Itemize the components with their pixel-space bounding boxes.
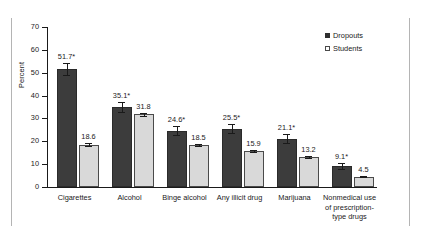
bar-students[interactable] (134, 114, 154, 187)
bar-value-label: 9.1* (326, 152, 358, 161)
bar-group: 21.1*13.2 (277, 27, 319, 187)
frame-rule-left (11, 18, 12, 226)
bar-value-label: 13.2 (293, 145, 325, 154)
y-axis-tick-label: 20 (31, 135, 39, 146)
bar-students[interactable] (79, 145, 99, 188)
chart-page: Percent 706050403020100 51.7*18.635.1*31… (0, 0, 429, 238)
error-cap-lower (118, 112, 125, 113)
frame-rule-right (409, 18, 410, 226)
bar-group: 24.6*18.5 (167, 27, 209, 187)
error-cap-upper (338, 163, 345, 164)
y-axis-tick-label: 40 (31, 90, 39, 101)
error-cap-upper (283, 134, 290, 135)
error-cap-lower (250, 152, 257, 153)
bar-value-label: 35.1* (106, 91, 138, 100)
y-axis-tick: 10 (42, 164, 47, 165)
y-axis-tick-label: 0 (35, 181, 39, 192)
error-cap-lower (360, 177, 367, 178)
error-bar (67, 63, 68, 75)
y-axis-tick: 60 (42, 50, 47, 51)
error-bar (232, 124, 233, 133)
bar-students[interactable] (299, 157, 319, 187)
bar-value-label: 51.7* (51, 52, 83, 61)
bar-dropouts[interactable] (57, 69, 77, 187)
error-cap-lower (305, 158, 312, 159)
y-axis-tick-label: 50 (31, 67, 39, 78)
y-axis-tick-label: 70 (31, 21, 39, 32)
bar-value-label: 15.9 (238, 139, 270, 148)
chart-legend: Dropouts Students (325, 30, 363, 56)
bar-group: 35.1*31.8 (112, 27, 154, 187)
bar-group: 25.5*15.9 (222, 27, 264, 187)
error-cap-lower (228, 133, 235, 134)
legend-swatch-dropouts-icon (325, 33, 330, 38)
y-axis-tick: 40 (42, 96, 47, 97)
y-axis-tick-label: 60 (31, 44, 39, 55)
error-cap-lower (140, 116, 147, 117)
error-cap-lower (63, 75, 70, 76)
error-bar (287, 134, 288, 143)
error-cap-upper (85, 143, 92, 144)
error-cap-upper (250, 150, 257, 151)
bar-value-label: 4.5 (348, 165, 380, 174)
bar-value-label: 18.6 (73, 132, 105, 141)
y-axis-tick: 70 (42, 27, 47, 28)
error-cap-lower (85, 146, 92, 147)
y-axis-tick: 20 (42, 141, 47, 142)
x-axis-label-line: type drugs (316, 212, 383, 222)
error-cap-upper (140, 113, 147, 114)
bar-value-label: 24.6* (161, 115, 193, 124)
y-axis-tick: 50 (42, 73, 47, 74)
error-cap-upper (228, 124, 235, 125)
error-bar (122, 102, 123, 113)
error-cap-upper (195, 144, 202, 145)
error-cap-upper (63, 63, 70, 64)
y-axis-tick-label: 30 (31, 112, 39, 123)
y-axis-title: Percent (17, 62, 26, 88)
bar-students[interactable] (244, 151, 264, 187)
error-cap-upper (118, 102, 125, 103)
y-axis-tick: 30 (42, 118, 47, 119)
error-cap-lower (338, 169, 345, 170)
legend-item-dropouts[interactable]: Dropouts (325, 30, 363, 41)
error-cap-upper (173, 126, 180, 127)
y-axis-tick: 0 (42, 187, 47, 188)
bar-value-label: 25.5* (216, 113, 248, 122)
error-cap-lower (195, 146, 202, 147)
error-cap-lower (173, 135, 180, 136)
x-axis-label: Nonmedical useof prescription-type drugs (316, 193, 383, 222)
x-axis-line (47, 187, 377, 188)
x-axis-label-line: of prescription- (316, 203, 383, 213)
error-cap-lower (283, 143, 290, 144)
legend-swatch-students-icon (325, 46, 330, 51)
legend-label-students: Students (333, 44, 362, 53)
legend-label-dropouts: Dropouts (333, 31, 363, 40)
bar-value-label: 18.5 (183, 133, 215, 142)
bar-value-label: 21.1* (271, 123, 303, 132)
error-bar (177, 126, 178, 135)
bar-dropouts[interactable] (222, 129, 242, 187)
bar-value-label: 31.8 (128, 102, 160, 111)
legend-item-students[interactable]: Students (325, 43, 363, 54)
y-axis-line (47, 27, 48, 187)
y-axis-tick-label: 10 (31, 158, 39, 169)
bar-dropouts[interactable] (112, 107, 132, 187)
bar-group: 51.7*18.6 (57, 27, 99, 187)
bar-students[interactable] (189, 145, 209, 187)
x-axis-label-line: Nonmedical use (316, 193, 383, 203)
